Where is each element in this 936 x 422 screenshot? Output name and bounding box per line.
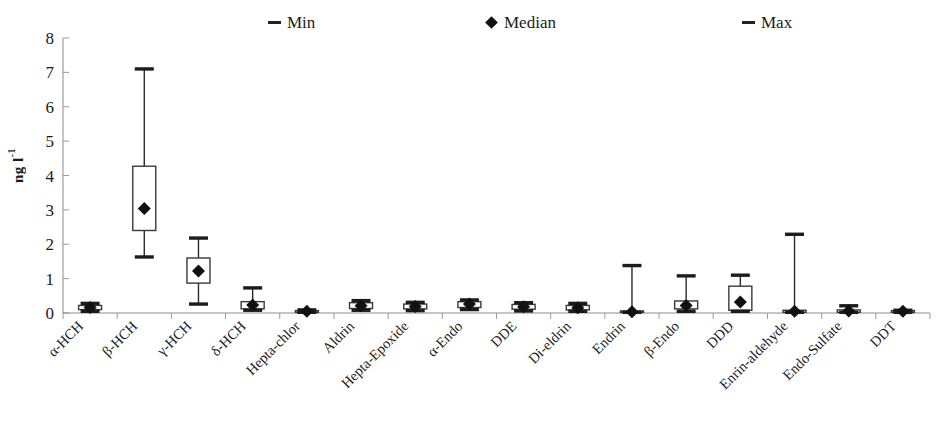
box-plot-chart: Min Median Max ng l-1 012345678 α-HCHβ-H… [0,0,936,422]
x-tick-label: γ-HCH [153,317,195,359]
y-tick-label: 5 [46,132,55,151]
y-tick-label: 1 [46,270,55,289]
y-tick-label: 6 [46,98,55,117]
y-tick-label: 7 [46,63,55,82]
plot-area: 012345678 α-HCHβ-HCHγ-HCHδ-HCHHepta-chlo… [0,0,936,422]
x-tick-label: DDT [867,318,899,350]
x-tick-label: δ-HCH [208,317,250,359]
x-tick-label: Endo-Sulfate [779,318,844,383]
box-plot-item [133,69,156,257]
box-plot-item [675,276,698,312]
median-marker [625,305,638,318]
y-tick-label: 4 [46,167,55,186]
box-rect [133,166,156,230]
median-marker [788,305,801,318]
x-tick-label: α-Endo [424,318,466,360]
y-tick-label: 8 [46,29,55,48]
x-tick-label: DDE [487,318,519,350]
box-plot-item [729,275,752,311]
box-plot-item [891,305,914,318]
box-plot-item [404,300,427,313]
x-tick-label: Endrin [589,317,629,357]
y-tick-label: 2 [46,235,55,254]
x-tick-label: Di-eldrin [525,317,574,366]
x-tick-label: DDD [703,318,737,352]
x-tick-label: α-HCH [44,317,86,359]
box-plot-item [79,301,102,314]
box-plot-item [458,298,481,311]
y-tick-label: 0 [46,304,55,323]
box-plot-item [566,301,589,314]
box-plot-item [512,300,535,313]
box-plot-item [350,299,373,312]
plot-svg: 012345678 α-HCHβ-HCHγ-HCHδ-HCHHepta-chlo… [0,0,936,422]
x-tick-label: β-Endo [641,318,683,360]
y-axis-group: 012345678 [46,29,70,323]
box-plot-item [620,266,643,319]
x-tick-label: β-HCH [99,317,141,359]
box-plot-item [187,238,210,304]
x-tick-label: Hepta-chlor [243,318,303,378]
box-plot-item [241,288,264,312]
median-marker [896,305,909,318]
box-plot-item [837,304,860,317]
box-plot-item [295,305,318,318]
x-tick-label: Aldrin [319,317,358,356]
median-marker [300,305,313,318]
box-series-group [79,69,915,318]
x-tick-label-group: α-HCHβ-HCHγ-HCHδ-HCHHepta-chlorAldrinHep… [44,317,899,392]
y-tick-label: 3 [46,201,55,220]
box-plot-item [783,234,806,318]
